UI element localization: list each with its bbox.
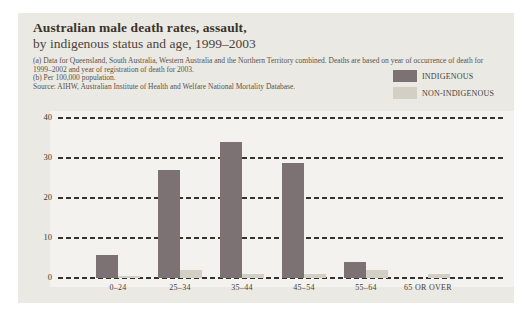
y-axis-tick-20: 20: [32, 192, 52, 204]
bar-non-indigenous-5: [366, 270, 388, 278]
legend-label-indigenous: INDIGENOUS: [422, 72, 473, 81]
non-indigenous-swatch: [393, 87, 417, 99]
bar-non-indigenous-2: [180, 270, 202, 278]
figure-panel: Australian male death rates, assault, by…: [18, 13, 514, 303]
indigenous-swatch: [393, 70, 417, 82]
legend-label-non-indigenous: NON-INDIGENOUS: [422, 89, 494, 98]
y-axis-tick-40: 40: [32, 112, 52, 124]
legend-item-indigenous: INDIGENOUS: [393, 70, 511, 82]
gridline-30: [58, 157, 505, 159]
bar-non-indigenous-3: [242, 274, 264, 278]
x-axis-label-6: 65 OR OVER: [388, 283, 468, 292]
legend: INDIGENOUS NON-INDIGENOUS: [393, 70, 511, 104]
legend-item-non-indigenous: NON-INDIGENOUS: [393, 87, 511, 99]
y-axis-tick-10: 10: [32, 232, 52, 244]
bar-indigenous-3: [220, 142, 242, 278]
bar-indigenous-2: [158, 170, 180, 278]
bar-non-indigenous-4: [304, 274, 326, 278]
y-axis-tick-30: 30: [32, 152, 52, 164]
gridline-40: [58, 117, 505, 119]
bar-non-indigenous-1: [118, 276, 140, 278]
bar-indigenous-5: [344, 262, 366, 278]
chart-title: Australian male death rates, assault,: [33, 20, 433, 36]
y-axis-tick-0: 0: [32, 272, 52, 284]
bar-indigenous-4: [282, 163, 304, 278]
bar-indigenous-1: [96, 255, 118, 278]
bar-non-indigenous-6: [428, 274, 450, 278]
chart-subtitle: by indigenous status and age, 1999–2003: [33, 36, 433, 52]
